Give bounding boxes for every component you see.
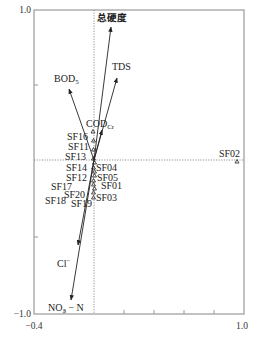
site-labels: SF16 SF11 SF13 SF14 SF04 SF12 SF05 SF01 … (45, 131, 240, 209)
marker-sf12 (92, 166, 96, 170)
label-no3n: NO3 − N (48, 302, 84, 315)
vector-cod (94, 130, 102, 160)
label-bod5: BOD5 (54, 73, 79, 86)
site-label-sf13: SF13 (65, 151, 86, 162)
site-label-sf18: SF18 (45, 195, 66, 206)
vector-hardness (94, 27, 111, 160)
marker-sf13 (92, 148, 96, 152)
marker-sf18 (92, 191, 96, 195)
site-label-sf02: SF02 (219, 148, 240, 159)
label-cod: CODCr (86, 118, 115, 131)
x-max-label: 1.0 (236, 321, 248, 331)
label-total-hardness: 总硬度 (97, 12, 127, 23)
site-label-sf19: SF19 (71, 198, 92, 209)
marker-sf17 (92, 179, 96, 183)
marker-sf11 (92, 139, 96, 143)
label-cl: Cl− (57, 257, 70, 269)
y-max-label: 1.0 (19, 5, 31, 15)
site-label-sf03: SF03 (96, 192, 117, 203)
marker-sf02 (235, 160, 239, 164)
marker-sf01 (93, 174, 97, 178)
x-min-label: −0.4 (25, 321, 42, 331)
y-min-label: −1.0 (14, 309, 31, 319)
marker-sf03 (93, 187, 97, 191)
site-label-sf01: SF01 (101, 180, 122, 191)
biplot-chart: 1.0 −1.0 −0.4 1.0 总硬度 TDS BOD5 CODCr Cl−… (0, 0, 255, 341)
marker-sf20 (92, 183, 96, 187)
label-tds: TDS (112, 61, 131, 72)
